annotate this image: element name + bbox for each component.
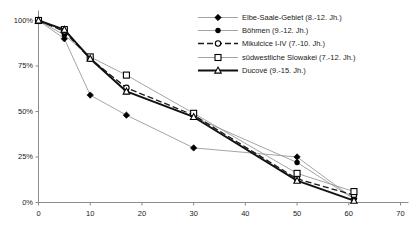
legend-marker xyxy=(215,54,221,60)
data-point xyxy=(294,170,300,176)
x-tick-label: 50 xyxy=(284,209,310,218)
x-tick-label: 20 xyxy=(129,209,155,218)
chart-legend: Elbe-Saale-Gebiet (8.-12. Jh.)Böhmen (9.… xyxy=(196,11,408,77)
legend-label: Mikulcice I-IV (7.-10. Jh.) xyxy=(240,39,325,48)
data-point xyxy=(351,189,357,195)
x-tick-label: 70 xyxy=(388,209,411,218)
data-point xyxy=(123,112,129,118)
y-tick-label: 25% xyxy=(0,152,33,161)
legend-item: Böhmen (9.-12. Jh.) xyxy=(196,24,408,37)
legend-label: südwestliche Slowakei (7.-12. Jh.) xyxy=(240,53,355,62)
legend-marker-open-square-icon xyxy=(196,51,240,64)
data-point xyxy=(87,92,93,98)
x-tick-label: 10 xyxy=(77,209,103,218)
data-point xyxy=(294,154,300,160)
legend-label: Ducové (9.-15. Jh.) xyxy=(240,66,306,75)
y-tick-label: 75% xyxy=(0,61,33,70)
legend-item: Mikulcice I-IV (7.-10. Jh.) xyxy=(196,37,408,50)
legend-marker-filled-diamond-icon xyxy=(196,11,240,24)
y-tick-label: 0% xyxy=(0,198,33,207)
legend-label: Elbe-Saale-Gebiet (8.-12. Jh.) xyxy=(240,13,342,22)
y-tick-label: 100% xyxy=(0,16,33,25)
x-tick-label: 40 xyxy=(232,209,258,218)
legend-marker xyxy=(215,28,220,33)
legend-marker xyxy=(215,41,220,46)
chart-root: 0%25%50%75%100% 010203040506070 Elbe-Saa… xyxy=(0,0,411,236)
data-point xyxy=(190,145,196,151)
x-tick-label: 60 xyxy=(336,209,362,218)
y-tick-label: 50% xyxy=(0,107,33,116)
legend-marker-filled-circle-icon xyxy=(196,24,240,37)
data-point xyxy=(123,72,129,78)
legend-item: südwestliche Slowakei (7.-12. Jh.) xyxy=(196,51,408,64)
legend-marker xyxy=(215,14,221,20)
legend-label: Böhmen (9.-12. Jh.) xyxy=(240,26,308,35)
legend-item: Ducové (9.-15. Jh.) xyxy=(196,64,408,77)
data-point xyxy=(294,160,299,165)
legend-marker-open-circle-icon xyxy=(196,37,240,50)
x-tick-label: 30 xyxy=(181,209,207,218)
legend-item: Elbe-Saale-Gebiet (8.-12. Jh.) xyxy=(196,11,408,24)
legend-marker-open-triangle-icon xyxy=(196,64,240,77)
x-tick-label: 0 xyxy=(26,209,52,218)
